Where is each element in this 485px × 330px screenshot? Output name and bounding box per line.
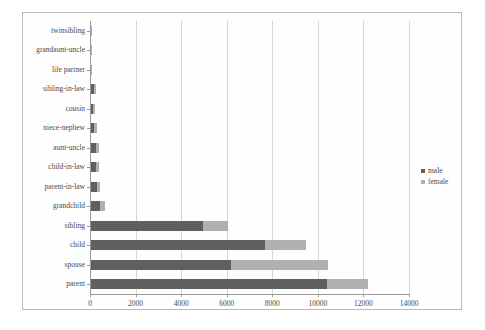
bar-row: child [90,240,306,250]
category-label: grandaunt-uncle [36,45,85,55]
bar-row: grandchild [90,201,105,211]
bar-segment-female [100,201,105,211]
x-tick-mark [318,294,319,297]
legend-swatch-icon [421,180,425,184]
y-axis-line [90,21,91,294]
x-tick-mark [363,294,364,297]
legend-swatch-icon [421,169,425,173]
y-tick-mark [87,167,90,168]
y-tick-mark [87,31,90,32]
bar-row: spouse [90,260,328,270]
plot-area: twinsiblinggrandaunt-unclelife partnersi… [90,21,409,294]
y-tick-mark [87,226,90,227]
x-tick-mark [227,294,228,297]
category-label: child [70,240,85,250]
y-tick-mark [87,89,90,90]
category-label: aunt-uncle [53,143,85,153]
bar-segment-male [90,240,265,250]
y-tick-mark [87,109,90,110]
legend-label: male [428,165,443,176]
category-label: niece-nephew [43,123,85,133]
x-tick-label: 6000 [219,299,234,308]
bar-segment-female [203,221,229,231]
x-axis-line [90,294,410,295]
y-tick-mark [87,187,90,188]
y-tick-mark [87,50,90,51]
x-tick-label: 2000 [128,299,143,308]
bar-segment-female [96,162,99,172]
legend-item[interactable]: male [421,165,448,176]
category-label: twinsibling [51,26,85,36]
legend-label: female [428,176,448,187]
x-tick-mark [272,294,273,297]
bar-segment-male [90,260,231,270]
bar-segment-female [265,240,306,250]
bar-row: niece-nephew [90,123,97,133]
x-tick-mark [90,294,91,297]
bar-group: twinsiblinggrandaunt-unclelife partnersi… [90,21,409,294]
category-label: parent [66,279,85,289]
legend-item[interactable]: female [421,176,448,187]
y-tick-mark [87,206,90,207]
bar-segment-female [94,84,96,94]
category-label: sibling-in-law [43,84,85,94]
bar-row: parent-in-law [90,182,100,192]
bar-segment-female [93,104,95,114]
gridline [409,21,410,294]
bar-row: sibling [90,221,228,231]
category-label: sibling [65,221,85,231]
x-tick-mark [136,294,137,297]
y-tick-mark [87,245,90,246]
x-tick-mark [409,294,410,297]
bar-segment-male [90,221,203,231]
bar-row: child-in-law [90,162,99,172]
bar-row: aunt-uncle [90,143,99,153]
category-label: life partner [52,65,85,75]
y-tick-mark [87,284,90,285]
bar-segment-male [90,201,100,211]
bar-segment-female [96,143,99,153]
category-label: child-in-law [48,162,85,172]
x-tick-label: 0 [88,299,92,308]
y-tick-mark [87,148,90,149]
bar-row: parent [90,279,368,289]
x-tick-label: 8000 [265,299,280,308]
bar-segment-female [231,260,328,270]
bar-chart: twinsiblinggrandaunt-unclelife partnersi… [22,12,462,310]
x-tick-label: 4000 [174,299,189,308]
y-tick-mark [87,128,90,129]
y-tick-mark [87,265,90,266]
category-label: grandchild [53,201,85,211]
y-tick-mark [87,70,90,71]
x-tick-mark [181,294,182,297]
bar-segment-female [327,279,369,289]
category-label: parent-in-law [45,182,85,192]
x-tick-label: 12000 [354,299,373,308]
chart-legend: malefemale [421,165,448,187]
bar-segment-female [94,123,97,133]
bar-segment-male [90,279,327,289]
category-label: spouse [65,260,85,270]
category-label: cousin [65,104,85,114]
x-tick-label: 14000 [400,299,419,308]
bar-segment-female [97,182,100,192]
x-tick-label: 10000 [308,299,327,308]
